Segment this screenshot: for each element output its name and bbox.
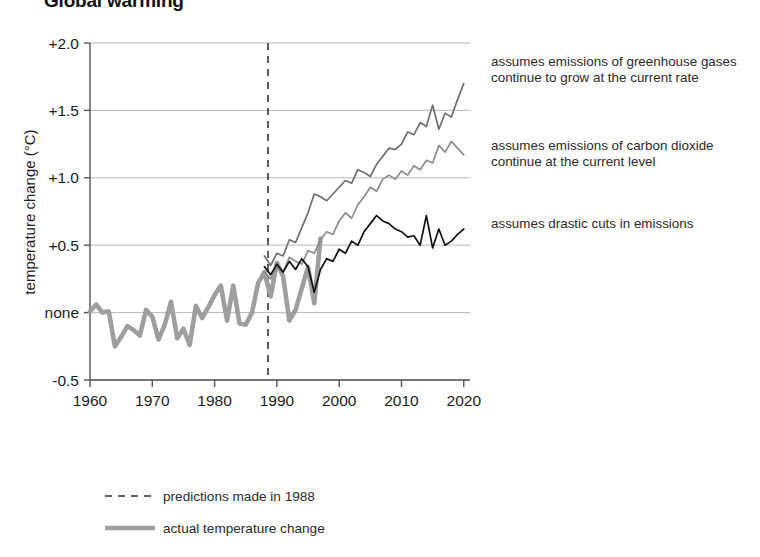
legend-item-predictions: predictions made in 1988 <box>163 489 315 504</box>
series-line <box>264 141 463 279</box>
legend-marks <box>105 496 155 528</box>
x-tick-label: 2000 <box>322 392 357 409</box>
x-tick-label: 2020 <box>447 392 482 409</box>
chart-figure: Global warming +2.0+1.5+1.0+0.5none-0.5 … <box>0 0 760 557</box>
legend-item-actual: actual temperature change <box>163 521 325 536</box>
series-line <box>264 216 463 293</box>
annotation-scenario-a: assumes emissions of greenhouse gases co… <box>491 54 759 87</box>
y-tick-label: +1.5 <box>48 102 79 119</box>
y-tick-label: +0.5 <box>48 237 79 254</box>
data-series-group <box>90 83 464 346</box>
x-tick-label: 2010 <box>384 392 419 409</box>
y-tick-label: none <box>45 304 79 321</box>
gridlines <box>90 43 470 380</box>
x-tick-label: 1960 <box>73 392 108 409</box>
axis-lines <box>90 43 470 380</box>
annotation-scenario-c: assumes drastic cuts in emissions <box>491 216 759 232</box>
y-axis-title: temperature change (°C) <box>21 129 38 294</box>
x-tick-label: 1970 <box>135 392 170 409</box>
series-line <box>90 238 320 346</box>
annotation-scenario-b: assumes emissions of carbon dioxide cont… <box>491 138 759 171</box>
y-tick-label: -0.5 <box>52 372 79 389</box>
x-axis-ticks: 1960197019801990200020102020 <box>73 380 482 409</box>
y-axis-ticks: +2.0+1.5+1.0+0.5none-0.5 <box>45 35 90 389</box>
y-tick-label: +2.0 <box>48 35 79 52</box>
x-tick-label: 1990 <box>260 392 295 409</box>
x-tick-label: 1980 <box>197 392 232 409</box>
y-tick-label: +1.0 <box>48 169 79 186</box>
